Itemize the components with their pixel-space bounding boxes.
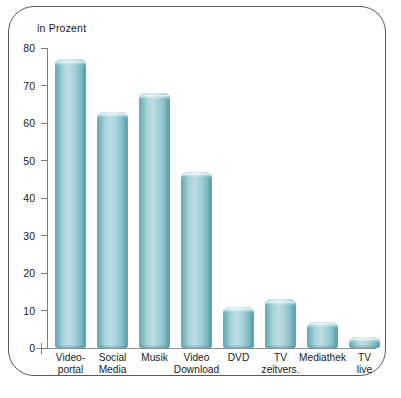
y-axis-line	[47, 48, 48, 348]
bar-chart: in Prozent 01020304050607080 Video-porta…	[0, 0, 401, 398]
y-axis-tick	[41, 273, 47, 274]
y-axis-tick-labels: 01020304050607080	[11, 0, 35, 398]
bar	[139, 93, 170, 348]
y-axis-tick-label: 40	[11, 192, 35, 204]
x-axis-category-label-line: Media	[88, 364, 138, 376]
bar	[265, 299, 296, 348]
bar	[223, 307, 254, 348]
x-axis-category-label-line: zeitvers.	[256, 364, 306, 376]
y-axis-tick	[41, 85, 47, 86]
y-axis-tick	[41, 123, 47, 124]
x-axis-category-label-line: TV	[340, 352, 390, 364]
y-axis-tick-label: 0	[11, 342, 35, 354]
chart-title: in Prozent	[37, 22, 86, 34]
y-axis-tick-label: 30	[11, 230, 35, 242]
bar	[55, 59, 86, 348]
y-axis-tick	[41, 235, 47, 236]
bar	[349, 337, 380, 348]
y-axis-tick-label: 10	[11, 305, 35, 317]
y-axis-tick	[41, 160, 47, 161]
x-axis-category-label-line: live	[340, 364, 390, 376]
x-axis-category-label: TVlive	[340, 352, 390, 376]
x-axis-line	[36, 348, 376, 349]
bar	[181, 172, 212, 348]
y-axis-tick-label: 20	[11, 267, 35, 279]
y-axis-tick-label: 70	[11, 80, 35, 92]
y-axis-tick	[41, 348, 47, 349]
bar	[97, 112, 128, 348]
y-axis-tick	[41, 310, 47, 311]
y-axis-tick-label: 60	[11, 117, 35, 129]
x-axis-category-label-line: Download	[172, 364, 222, 376]
bar	[307, 322, 338, 348]
y-axis-tick	[41, 198, 47, 199]
y-axis-tick-label: 50	[11, 155, 35, 167]
y-axis-tick	[41, 48, 47, 49]
y-axis-tick-label: 80	[11, 42, 35, 54]
